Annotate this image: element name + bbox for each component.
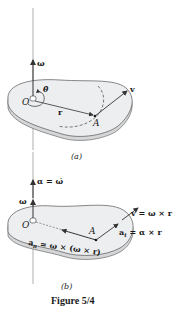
theta-dot-label-a: θ̇	[43, 84, 49, 94]
point-label-a: A	[92, 118, 100, 128]
figure-canvas: ω O θ̇ r A v (a) α = ω̇ ω O	[0, 0, 188, 310]
alpha-label-b: α = ω̇	[37, 176, 63, 186]
panel-label-a: (a)	[71, 152, 82, 161]
origin-label-a: O	[22, 97, 30, 107]
hub-b	[30, 218, 36, 223]
figure-caption: Figure 5/4	[51, 295, 94, 306]
omega-label-a: ω	[37, 58, 45, 68]
v-label-a: v	[129, 84, 135, 94]
panel-b: α = ω̇ ω O A at = α × r v = ω × r an = ω…	[8, 152, 173, 291]
omega-label-b: ω	[19, 196, 27, 206]
panel-label-b: (b)	[61, 282, 72, 291]
hub-a	[30, 96, 36, 101]
panel-a: ω O θ̇ r A v (a)	[8, 8, 135, 161]
origin-label-b: O	[22, 220, 30, 230]
v-label-b: v = ω × r	[130, 208, 173, 218]
point-label-b: A	[88, 226, 96, 236]
disc-top-a	[8, 80, 132, 137]
